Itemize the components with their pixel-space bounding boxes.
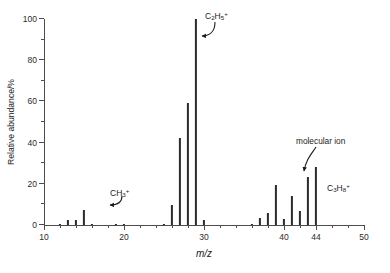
y-tick-major (39, 18, 44, 19)
x-tick-major (316, 225, 317, 230)
spectrum-peak (187, 103, 189, 225)
ch3-charge: + (126, 187, 130, 194)
spectrum-peak (75, 220, 77, 225)
x-tick-major (124, 225, 125, 230)
y-axis-title: Relative abundance/% (4, 19, 18, 225)
c3h8-charge: + (346, 182, 350, 189)
spectrum-peak (195, 19, 197, 225)
spectrum-peak (203, 220, 205, 225)
x-tick-label: 20 (119, 232, 128, 242)
spectrum-peak (291, 196, 293, 225)
annotation-c3h8-molecular-ion: C3H8+ (327, 183, 350, 193)
spectrum-peak (171, 205, 173, 225)
spectrum-peak (67, 220, 69, 225)
x-tick-minor (300, 225, 301, 228)
y-tick-minor (41, 121, 44, 122)
y-tick-label: 40 (28, 138, 37, 148)
y-tick-minor (41, 203, 44, 204)
x-tick-label: 44 (311, 232, 320, 242)
y-tick-label: 0 (32, 220, 37, 230)
ch3-element: CH (110, 188, 122, 198)
y-tick-major (39, 100, 44, 101)
x-tick-minor (76, 225, 77, 228)
spectrum-peak (275, 185, 277, 225)
x-tick-minor (332, 225, 333, 228)
y-tick-label: 100 (23, 14, 37, 24)
spectrum-peak (163, 224, 165, 225)
x-tick-minor (60, 225, 61, 228)
x-tick-minor (172, 225, 173, 228)
x-tick-label: 40 (279, 232, 288, 242)
x-tick-minor (268, 225, 269, 228)
spectrum-peak (91, 224, 93, 225)
x-tick-minor (140, 225, 141, 228)
x-tick-label: 10 (39, 232, 48, 242)
annotation-ch3-cation: CH3+ (110, 188, 129, 198)
y-tick-minor (41, 39, 44, 40)
x-tick-minor (220, 225, 221, 228)
y-tick-label: 80 (28, 55, 37, 65)
spectrum-peak (267, 213, 269, 225)
y-tick-major (39, 183, 44, 184)
x-tick-major (364, 225, 365, 230)
spectrum-peak (251, 224, 253, 225)
y-tick-label: 20 (28, 179, 37, 189)
annotation-molecular-ion-callout: molecular ion (296, 137, 345, 145)
y-tick-label: 60 (28, 96, 37, 106)
spectrum-peak (179, 138, 181, 225)
c2h5-charge: + (224, 10, 228, 17)
x-tick-major (284, 225, 285, 230)
x-tick-minor (156, 225, 157, 228)
x-tick-label: 30 (199, 232, 208, 242)
x-tick-minor (348, 225, 349, 228)
x-tick-minor (236, 225, 237, 228)
spectrum-peak (259, 218, 261, 225)
spectrum-peak (123, 224, 125, 225)
x-tick-label: 50 (359, 232, 368, 242)
y-tick-major (39, 142, 44, 143)
x-tick-minor (252, 225, 253, 228)
plot-area: 020406080100102030404450 (44, 19, 364, 225)
annotation-c2h5-cation: C2H5+ (205, 11, 228, 21)
x-tick-major (44, 225, 45, 230)
mass-spectrum-chart: Relative abundance/% 0204060801001020304… (0, 0, 390, 273)
x-axis-title: m/z (44, 248, 364, 259)
x-tick-major (204, 225, 205, 230)
spectrum-peak (59, 224, 61, 225)
y-tick-major (39, 59, 44, 60)
x-tick-minor (188, 225, 189, 228)
y-tick-minor (41, 162, 44, 163)
spectrum-peak (307, 177, 309, 225)
y-tick-minor (41, 80, 44, 81)
spectrum-peak (83, 210, 85, 225)
spectrum-peak (115, 224, 117, 225)
x-tick-minor (92, 225, 93, 228)
spectrum-peak (283, 219, 285, 225)
spectrum-peak (315, 167, 317, 225)
x-tick-minor (108, 225, 109, 228)
y-axis-title-text: Relative abundance/% (6, 79, 16, 165)
spectrum-peak (299, 211, 301, 225)
x-axis-title-text: m/z (196, 248, 212, 259)
